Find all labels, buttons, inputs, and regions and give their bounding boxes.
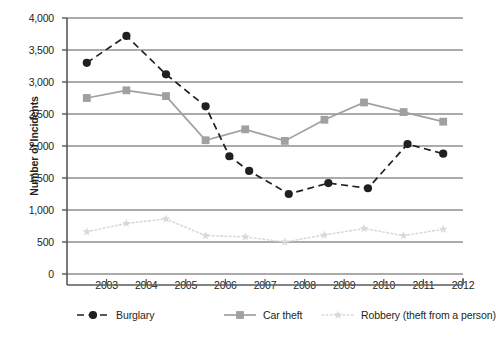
burglary-marker <box>245 167 253 175</box>
burglary-marker <box>324 179 332 187</box>
legend-label: Robbery (theft from a person) <box>361 309 496 321</box>
robbery-marker <box>162 214 171 222</box>
car-theft-marker <box>123 86 131 94</box>
gridlines <box>67 18 463 242</box>
burglary-marker <box>439 150 447 158</box>
chart-legend: BurglaryCar theftRobbery (theft from a p… <box>0 306 489 332</box>
car-theft-marker <box>439 118 447 126</box>
burglary-marker <box>83 59 91 67</box>
star-marker <box>320 308 356 322</box>
robbery-marker <box>82 227 91 235</box>
burglary-marker <box>202 102 210 110</box>
burglary-marker <box>225 152 233 160</box>
circle-marker <box>75 308 111 322</box>
series-robbery <box>82 214 447 245</box>
legend-label: Burglary <box>116 309 154 321</box>
car-theft-line <box>87 90 443 141</box>
burglary-marker <box>403 140 411 148</box>
burglary-marker <box>364 184 372 192</box>
legend-item-burglary[interactable]: Burglary <box>75 306 154 324</box>
burglary-marker <box>285 190 293 198</box>
car-theft-marker <box>400 108 408 116</box>
legend-marker <box>89 311 97 319</box>
robbery-marker <box>280 237 289 245</box>
car-theft-marker <box>281 137 289 145</box>
burglary-line <box>87 36 443 194</box>
legend-label: Car theft <box>263 309 302 321</box>
car-theft-marker <box>83 94 91 102</box>
robbery-marker <box>439 225 448 233</box>
x-axis-ticks <box>107 279 463 285</box>
series-car-theft <box>83 86 447 144</box>
car-theft-marker <box>241 125 249 133</box>
series-burglary <box>83 32 448 198</box>
robbery-marker <box>320 230 329 238</box>
legend-marker <box>334 310 343 318</box>
robbery-marker <box>399 231 408 239</box>
robbery-marker <box>241 232 250 240</box>
robbery-line <box>87 219 443 242</box>
legend-marker <box>236 311 244 319</box>
car-theft-marker <box>202 136 210 144</box>
burglary-marker <box>162 70 170 78</box>
legend-item-robbery[interactable]: Robbery (theft from a person) <box>320 306 496 324</box>
car-theft-marker <box>321 116 329 124</box>
robbery-marker <box>360 224 369 232</box>
car-theft-marker <box>360 99 368 107</box>
square-marker <box>222 308 258 322</box>
robbery-marker <box>201 231 210 239</box>
burglary-marker <box>122 32 130 40</box>
robbery-marker <box>122 219 131 227</box>
legend-item-car-theft[interactable]: Car theft <box>222 306 302 324</box>
car-theft-marker <box>162 92 170 100</box>
axis-lines <box>67 18 463 285</box>
